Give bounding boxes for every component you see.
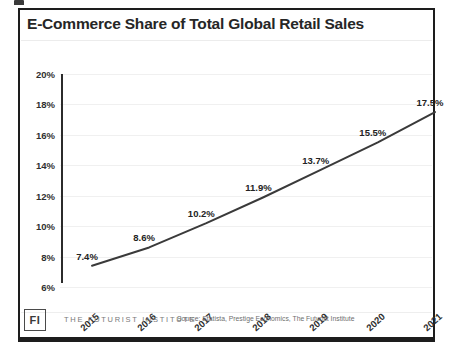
clipped-glyph-artifact	[14, 0, 24, 5]
data-label: 7.4%	[76, 251, 98, 262]
data-label: 15.5%	[359, 127, 386, 138]
data-label: 13.7%	[302, 155, 329, 166]
source-attribution: Source: Statista, Prestige Economics, Th…	[177, 315, 354, 322]
y-axis-tick: 14%	[36, 160, 55, 171]
y-axis-tick: 8%	[41, 251, 55, 262]
title-divider	[21, 40, 432, 41]
chart-title: E-Commerce Share of Total Global Retail …	[27, 15, 364, 33]
y-axis-tick: 16%	[36, 129, 55, 140]
data-label: 8.6%	[133, 232, 155, 243]
chart-card: E-Commerce Share of Total Global Retail …	[18, 8, 435, 342]
y-axis-tick: 12%	[36, 190, 55, 201]
data-label: 10.2%	[188, 208, 215, 219]
data-label: 11.9%	[245, 182, 271, 193]
line-series	[60, 43, 432, 288]
y-axis-tick: 18%	[36, 99, 55, 110]
plot-area: 20%18%16%14%12%10%8%6% 20152016201720182…	[60, 43, 432, 288]
y-axis-tick: 6%	[41, 282, 55, 293]
data-label: 17.5%	[417, 97, 444, 108]
futurist-institute-logo: FI	[24, 309, 46, 331]
y-axis-tick: 20%	[36, 69, 55, 80]
y-axis-tick: 10%	[36, 221, 55, 232]
chart-footer: FI THE FUTURIST INSTITUTE Source: Statis…	[20, 306, 433, 337]
